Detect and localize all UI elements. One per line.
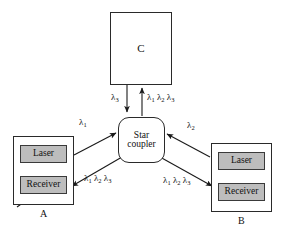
star-coupler-label-line2: coupler: [127, 140, 156, 150]
node-c-box[interactable]: C: [110, 12, 172, 85]
lambda-sub-3: 3: [115, 96, 118, 103]
edge-label-a-uplink: λ1: [79, 118, 87, 127]
node-a-receiver-label: Receiver: [27, 180, 61, 190]
node-b-laser-label: Laser: [231, 156, 252, 166]
node-b-caption: B: [238, 216, 245, 226]
node-c-label: C: [137, 43, 144, 54]
lambda-sub-ad1: 1: [88, 177, 91, 184]
network-diagram-figure: C Star coupler Laser Receiver A Laser Re…: [0, 0, 285, 232]
lambda-sub-b2: 2: [191, 124, 194, 131]
edge-label-b-downlink: λ1 λ2 λ3: [163, 176, 190, 185]
node-a-receiver-box[interactable]: Receiver: [20, 176, 67, 194]
node-b-receiver-label: Receiver: [225, 187, 259, 197]
lambda-sub-3b: 3: [171, 96, 174, 103]
lambda-sub-1: 1: [151, 96, 154, 103]
edge-label-a-downlink: λ1 λ2 λ3: [84, 174, 111, 183]
node-a-caption: A: [40, 209, 47, 219]
lambda-sub-bd1: 1: [167, 179, 170, 186]
lambda-sub-ad3: 3: [108, 177, 111, 184]
node-b-receiver-box[interactable]: Receiver: [218, 183, 265, 201]
edge-label-b-uplink: λ2: [187, 121, 195, 130]
star-coupler-box[interactable]: Star coupler: [118, 117, 165, 163]
node-b-laser-box[interactable]: Laser: [218, 152, 265, 170]
lambda-sub-ad2: 2: [98, 177, 101, 184]
lambda-sub-a1: 1: [83, 121, 86, 128]
lambda-sub-bd2: 2: [177, 179, 180, 186]
edge-label-c-downlink: λ3: [111, 93, 119, 102]
lambda-sub-bd3: 3: [187, 179, 190, 186]
edge-a-to-coupler: [74, 133, 116, 155]
edge-b-to-coupler: [167, 134, 210, 157]
lambda-sub-2: 2: [161, 96, 164, 103]
edge-label-c-uplink: λ1 λ2 λ3: [147, 93, 174, 102]
node-a-laser-label: Laser: [33, 149, 54, 159]
node-a-laser-box[interactable]: Laser: [20, 145, 67, 163]
